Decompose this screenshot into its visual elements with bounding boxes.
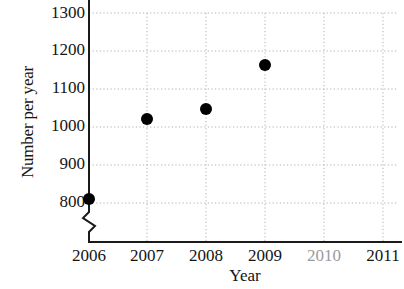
x-tick-label-2010: 2010 bbox=[294, 246, 354, 266]
x-tick-label-2007: 2007 bbox=[117, 246, 177, 266]
data-points bbox=[83, 59, 271, 205]
scatter-chart: Number per year 1300 1200 1100 1000 900 … bbox=[0, 0, 404, 289]
vertical-gridlines bbox=[147, 13, 383, 242]
x-tick-label-2006: 2006 bbox=[59, 246, 119, 266]
data-point-2006 bbox=[83, 193, 95, 205]
data-point-2007 bbox=[141, 113, 153, 125]
x-tick-label-2009: 2009 bbox=[235, 246, 295, 266]
data-point-2008 bbox=[200, 103, 212, 115]
x-axis-title: Year bbox=[85, 266, 404, 286]
data-point-2009 bbox=[259, 59, 271, 71]
horizontal-gridlines bbox=[89, 13, 398, 203]
x-tick-label-2008: 2008 bbox=[176, 246, 236, 266]
y-axis-break-icon bbox=[83, 206, 95, 242]
x-tick-label-2011: 2011 bbox=[353, 246, 404, 266]
